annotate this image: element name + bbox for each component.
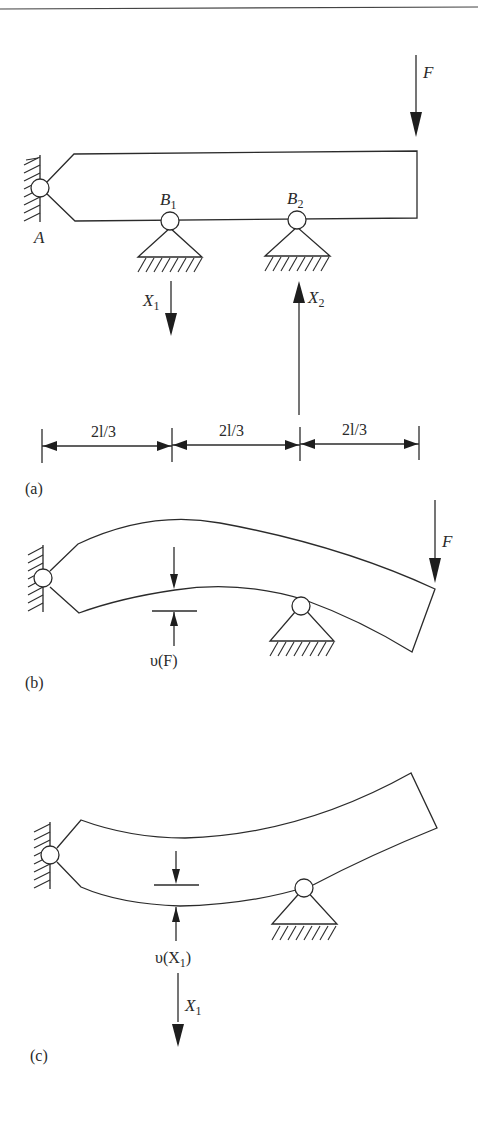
deflection-marker-f [152, 547, 197, 646]
dimension-label-2: 2l/3 [219, 422, 244, 439]
panel-c: υ(X1) X1 (c) [30, 773, 437, 1065]
label-deflection-x1: υ(X1) [155, 949, 191, 970]
label-f-b: F [441, 532, 453, 551]
support-b2 [265, 211, 330, 271]
deformed-beam-f [50, 519, 435, 652]
pin-a [31, 179, 49, 197]
label-b2: B2 [287, 189, 303, 211]
panel-b: F υ(F) (b) [25, 500, 453, 692]
deformed-beam-x1 [57, 773, 437, 906]
force-x1-arrow-c [172, 973, 184, 1047]
caption-a: (a) [25, 480, 43, 498]
dimension-label-3: 2l/3 [342, 421, 367, 438]
beam-outline [46, 151, 417, 221]
caption-c: (c) [30, 1047, 48, 1065]
deflection-marker-x1 [154, 851, 199, 941]
top-rule [0, 7, 478, 9]
caption-b: (b) [25, 674, 44, 692]
label-a: A [33, 228, 45, 247]
beam-diagram: A B1 [0, 0, 478, 1121]
label-x1-c: X1 [184, 996, 201, 1018]
reaction-x1-arrow [165, 281, 177, 336]
reaction-x2-arrow [293, 281, 305, 415]
label-f: F [422, 63, 434, 82]
label-x1: X1 [142, 291, 159, 313]
force-f-arrow-b [429, 500, 441, 583]
force-f-arrow [410, 55, 422, 137]
pin-a-b [34, 569, 52, 587]
dimension-label-1: 2l/3 [91, 423, 116, 440]
label-b1: B1 [160, 190, 176, 212]
pin-a-c [41, 846, 59, 864]
support-b-panel-c [272, 879, 337, 940]
label-x2: X2 [307, 288, 324, 310]
panel-a: A B1 [24, 55, 434, 498]
label-deflection-f: υ(F) [150, 652, 177, 670]
support-b-panel-b [270, 597, 334, 656]
